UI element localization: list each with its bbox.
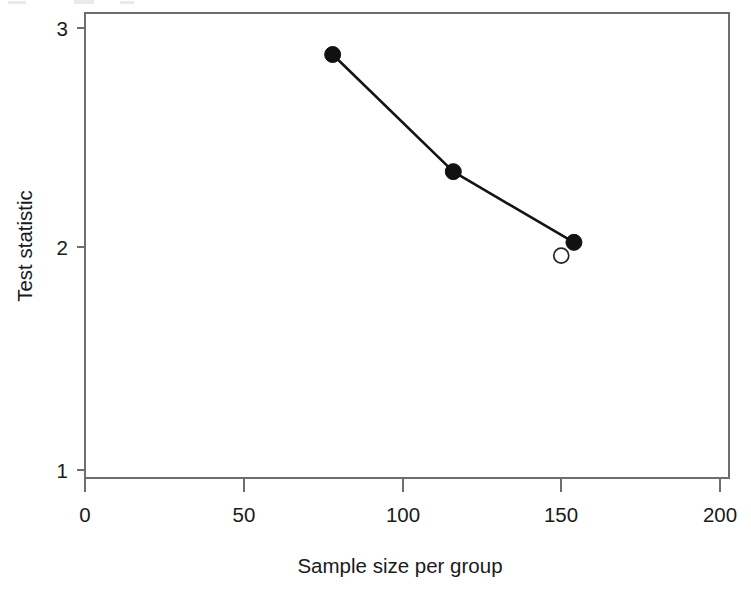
line-chart: 3 2 1 0 50 100 150 200 Sample size per g… [0,0,751,598]
y-tick-label-2: 2 [57,236,68,259]
data-point-filled [325,47,341,63]
scan-artifacts [8,0,134,4]
y-tick-label-3: 3 [57,17,68,40]
y-axis-ticks [77,28,85,470]
x-tick-label-0: 0 [79,503,90,526]
series-line-0 [333,55,574,243]
data-point-filled [566,234,582,250]
data-point-filled [445,164,461,180]
x-tick-label-100: 100 [386,503,420,526]
x-tick-label-50: 50 [233,503,256,526]
y-axis-title: Test statistic [13,190,36,302]
x-tick-label-150: 150 [544,503,578,526]
x-axis-title: Sample size per group [297,554,502,577]
data-point-open [554,248,569,263]
x-axis-ticks [85,478,720,492]
data-layer [325,47,582,264]
plot-panel-border [85,13,729,478]
x-tick-label-200: 200 [703,503,737,526]
chart-figure: 3 2 1 0 50 100 150 200 Sample size per g… [0,0,751,598]
y-tick-label-1: 1 [57,459,68,482]
